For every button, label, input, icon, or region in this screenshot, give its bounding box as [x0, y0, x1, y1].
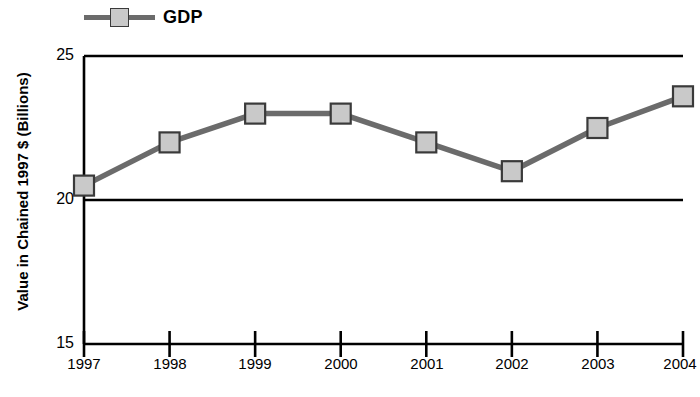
gdp-data-markers: [74, 86, 693, 195]
data-point-2001: [416, 132, 436, 152]
data-point-2000: [331, 104, 351, 124]
data-point-2002: [502, 161, 522, 181]
data-point-1998: [160, 132, 180, 152]
plot-area: [0, 0, 700, 397]
data-point-2004: [673, 86, 693, 106]
data-point-2003: [587, 118, 607, 138]
chart-container: GDP Value in Chained 1997 $ (Billions) 2…: [0, 0, 700, 397]
data-point-1997: [74, 176, 94, 196]
data-point-1999: [245, 104, 265, 124]
